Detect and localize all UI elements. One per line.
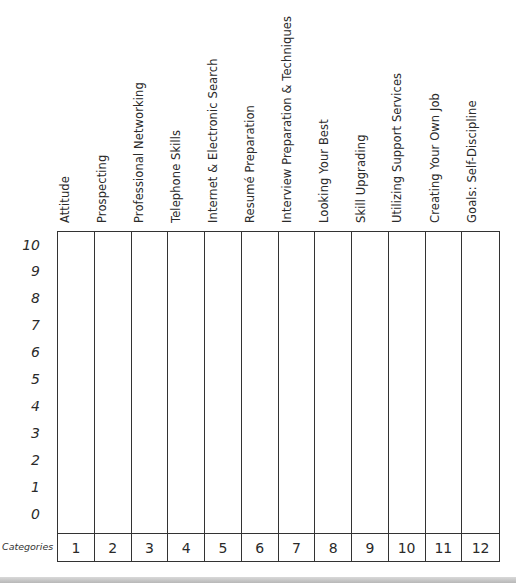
rating-column-10[interactable] bbox=[389, 232, 426, 533]
category-number-10: 10 bbox=[389, 533, 426, 561]
category-number-11: 11 bbox=[426, 533, 463, 561]
y-tick-3: 3 bbox=[0, 425, 40, 441]
y-tick-5: 5 bbox=[0, 371, 40, 387]
rating-column-12[interactable] bbox=[462, 232, 499, 533]
rating-column-3[interactable] bbox=[132, 232, 169, 533]
rating-column-4[interactable] bbox=[168, 232, 205, 533]
y-tick-7: 7 bbox=[0, 317, 40, 333]
rating-grid: 1 2 3 4 5 6 7 8 9 10 11 12 bbox=[57, 231, 500, 562]
rating-column-11[interactable] bbox=[426, 232, 463, 533]
category-number-6: 6 bbox=[242, 533, 279, 561]
category-number-5: 5 bbox=[205, 533, 242, 561]
rating-column-6[interactable] bbox=[242, 232, 279, 533]
self-assessment-chart: Attitude Prospecting Professional Networ… bbox=[0, 0, 516, 583]
rating-column-8[interactable] bbox=[315, 232, 352, 533]
bottom-divider-bar bbox=[0, 577, 516, 583]
y-tick-1: 1 bbox=[0, 479, 40, 495]
category-number-4: 4 bbox=[168, 533, 205, 561]
rating-column-2[interactable] bbox=[95, 232, 132, 533]
y-tick-8: 8 bbox=[0, 290, 40, 306]
rating-column-9[interactable] bbox=[352, 232, 389, 533]
category-number-2: 2 bbox=[95, 533, 132, 561]
category-number-1: 1 bbox=[58, 533, 95, 561]
category-number-7: 7 bbox=[279, 533, 316, 561]
y-tick-4: 4 bbox=[0, 398, 40, 414]
y-tick-6: 6 bbox=[0, 344, 40, 360]
y-tick-9: 9 bbox=[0, 263, 40, 279]
y-tick-2: 2 bbox=[0, 452, 40, 468]
y-tick-10: 10 bbox=[0, 237, 40, 253]
y-tick-0: 0 bbox=[0, 506, 40, 522]
rating-column-1[interactable] bbox=[58, 232, 95, 533]
category-number-12: 12 bbox=[462, 533, 499, 561]
category-number-8: 8 bbox=[315, 533, 352, 561]
categories-axis-label: Categories bbox=[2, 541, 53, 552]
category-number-9: 9 bbox=[352, 533, 389, 561]
rating-column-7[interactable] bbox=[279, 232, 316, 533]
rating-column-5[interactable] bbox=[205, 232, 242, 533]
category-number-3: 3 bbox=[132, 533, 169, 561]
